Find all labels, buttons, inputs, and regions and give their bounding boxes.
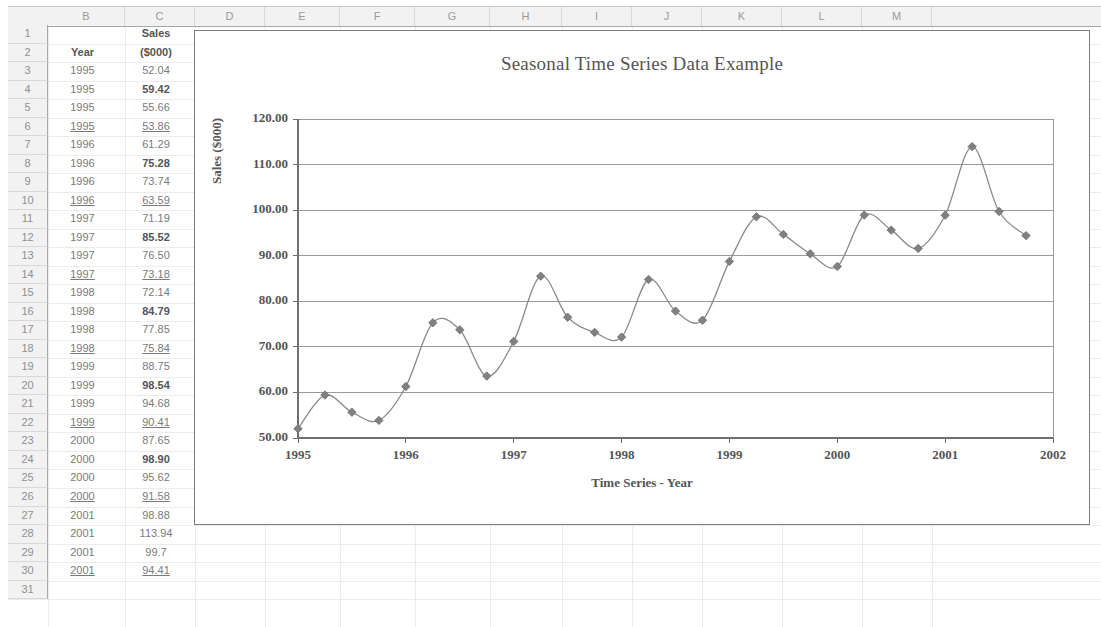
chart-data-point-25[interactable]	[968, 142, 976, 150]
column-header-c[interactable]: C	[125, 7, 195, 26]
chart-data-point-4[interactable]	[402, 382, 410, 390]
chart-data-point-27[interactable]	[1022, 231, 1030, 239]
cell-c28-sales[interactable]: 113.94	[125, 525, 187, 544]
cell-b10-year[interactable]: 1996	[48, 192, 117, 211]
cell-b2-year-header[interactable]: Year	[48, 44, 117, 63]
cell-c23-sales[interactable]: 87.65	[125, 432, 187, 451]
row-header-5[interactable]: 5	[8, 99, 48, 118]
cell-c27-sales[interactable]: 98.88	[125, 507, 187, 526]
cell-b12-year[interactable]: 1997	[48, 229, 117, 248]
cell-b27-year[interactable]: 2001	[48, 507, 117, 526]
row-header-28[interactable]: 28	[8, 525, 48, 544]
chart-data-point-24[interactable]	[941, 211, 949, 219]
row-header-14[interactable]: 14	[8, 266, 48, 285]
cell-c8-sales[interactable]: 75.28	[125, 155, 187, 174]
row-header-11[interactable]: 11	[8, 210, 48, 229]
chart-data-point-19[interactable]	[806, 250, 814, 258]
cell-c12-sales[interactable]: 85.52	[125, 229, 187, 248]
cell-c5-sales[interactable]: 55.66	[125, 99, 187, 118]
chart-data-point-8[interactable]	[510, 337, 518, 345]
cell-b17-year[interactable]: 1998	[48, 321, 117, 340]
row-header-18[interactable]: 18	[8, 340, 48, 359]
cell-b16-year[interactable]: 1998	[48, 303, 117, 322]
cell-c16-sales[interactable]: 84.79	[125, 303, 187, 322]
row-header-7[interactable]: 7	[8, 136, 48, 155]
cell-b24-year[interactable]: 2000	[48, 451, 117, 470]
row-header-10[interactable]: 10	[8, 192, 48, 211]
column-header-k[interactable]: K	[702, 7, 782, 26]
row-header-29[interactable]: 29	[8, 544, 48, 563]
column-header-d[interactable]: D	[195, 7, 265, 26]
cell-c6-sales[interactable]: 53.86	[125, 118, 187, 137]
row-header-30[interactable]: 30	[8, 562, 48, 581]
cell-b26-year[interactable]: 2000	[48, 488, 117, 507]
cell-b20-year[interactable]: 1999	[48, 377, 117, 396]
row-header-19[interactable]: 19	[8, 358, 48, 377]
row-header-13[interactable]: 13	[8, 247, 48, 266]
cell-b23-year[interactable]: 2000	[48, 432, 117, 451]
cell-c4-sales[interactable]: 59.42	[125, 81, 187, 100]
cell-b19-year[interactable]: 1999	[48, 358, 117, 377]
column-header-f[interactable]: F	[340, 7, 415, 26]
cell-b9-year[interactable]: 1996	[48, 173, 117, 192]
cell-c11-sales[interactable]: 71.19	[125, 210, 187, 229]
row-header-3[interactable]: 3	[8, 62, 48, 81]
cell-c14-sales[interactable]: 73.18	[125, 266, 187, 285]
row-header-23[interactable]: 23	[8, 432, 48, 451]
cell-c18-sales[interactable]: 75.84	[125, 340, 187, 359]
cell-c13-sales[interactable]: 76.50	[125, 247, 187, 266]
chart-data-point-16[interactable]	[725, 257, 733, 265]
chart-data-point-3[interactable]	[375, 416, 383, 424]
cell-b22-year[interactable]: 1999	[48, 414, 117, 433]
column-header-b[interactable]: B	[48, 7, 125, 26]
cell-b7-year[interactable]: 1996	[48, 136, 117, 155]
cell-c25-sales[interactable]: 95.62	[125, 469, 187, 488]
row-header-21[interactable]: 21	[8, 395, 48, 414]
cell-c1-sales-header[interactable]: Sales	[125, 25, 187, 44]
cell-c10-sales[interactable]: 63.59	[125, 192, 187, 211]
chart-data-point-0[interactable]	[294, 425, 302, 433]
chart-data-point-26[interactable]	[995, 207, 1003, 215]
cell-b5-year[interactable]: 1995	[48, 99, 117, 118]
cell-b4-year[interactable]: 1995	[48, 81, 117, 100]
row-header-24[interactable]: 24	[8, 451, 48, 470]
cell-c26-sales[interactable]: 91.58	[125, 488, 187, 507]
row-header-20[interactable]: 20	[8, 377, 48, 396]
cell-c9-sales[interactable]: 73.74	[125, 173, 187, 192]
row-header-6[interactable]: 6	[8, 118, 48, 137]
cell-c20-sales[interactable]: 98.54	[125, 377, 187, 396]
cell-c29-sales[interactable]: 99.7	[125, 544, 187, 563]
column-header-h[interactable]: H	[490, 7, 562, 26]
cell-b11-year[interactable]: 1997	[48, 210, 117, 229]
row-header-16[interactable]: 16	[8, 303, 48, 322]
column-header-l[interactable]: L	[782, 7, 862, 26]
cell-c30-sales[interactable]: 94.41	[125, 562, 187, 581]
cell-c24-sales[interactable]: 98.90	[125, 451, 187, 470]
cell-c17-sales[interactable]: 77.85	[125, 321, 187, 340]
row-header-26[interactable]: 26	[8, 488, 48, 507]
cell-b21-year[interactable]: 1999	[48, 395, 117, 414]
row-header-9[interactable]: 9	[8, 173, 48, 192]
embedded-chart-object[interactable]: Seasonal Time Series Data Example Sales …	[194, 30, 1090, 525]
cell-b25-year[interactable]: 2000	[48, 469, 117, 488]
column-header-i[interactable]: I	[562, 7, 632, 26]
row-header-22[interactable]: 22	[8, 414, 48, 433]
cell-b13-year[interactable]: 1997	[48, 247, 117, 266]
chart-data-point-7[interactable]	[483, 372, 491, 380]
row-header-15[interactable]: 15	[8, 284, 48, 303]
row-header-8[interactable]: 8	[8, 155, 48, 174]
chart-data-point-23[interactable]	[914, 244, 922, 252]
cell-b30-year[interactable]: 2001	[48, 562, 117, 581]
column-header-m[interactable]: M	[862, 7, 932, 26]
row-header-17[interactable]: 17	[8, 321, 48, 340]
column-header-e[interactable]: E	[265, 7, 340, 26]
cell-c2-units-header[interactable]: ($000)	[125, 44, 187, 63]
cell-c15-sales[interactable]: 72.14	[125, 284, 187, 303]
row-header-27[interactable]: 27	[8, 507, 48, 526]
row-header-25[interactable]: 25	[8, 469, 48, 488]
cell-c19-sales[interactable]: 88.75	[125, 358, 187, 377]
cell-c3-sales[interactable]: 52.04	[125, 62, 187, 81]
row-header-12[interactable]: 12	[8, 229, 48, 248]
cell-c22-sales[interactable]: 90.41	[125, 414, 187, 433]
cell-b15-year[interactable]: 1998	[48, 284, 117, 303]
